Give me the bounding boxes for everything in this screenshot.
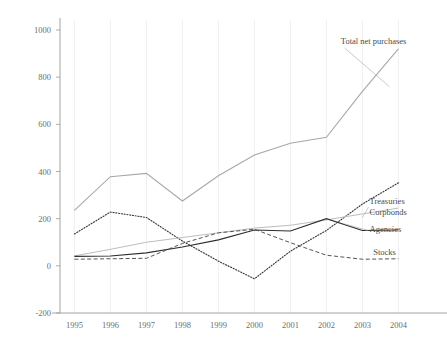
x-tick-label-1995: 1995 [66,320,83,330]
x-tick-label-2000: 2000 [246,320,263,330]
leader-line-treasuries [362,207,368,217]
series-line-total-net-purchases [74,49,398,211]
y-tick-label-800: 800 [38,72,51,82]
series-label-treasuries: Treasuries [370,196,405,206]
series-label-corpbonds: Corpbonds [370,207,407,217]
series-label-agencies: Agencies [370,224,402,234]
data-series-lines [74,49,398,279]
x-tick-label-1998: 1998 [174,320,191,330]
series-line-corpbonds [74,208,398,256]
x-tick-label-2004: 2004 [390,320,408,330]
series-label-total-net-purchases: Total net purchases [341,36,407,46]
y-axis-tick-labels: -20002004006008001000 [34,25,51,318]
y-tick-label-400: 400 [38,167,51,177]
y-tick-label-200: 200 [38,214,51,224]
series-label-stocks: Stocks [373,247,396,257]
x-tick-label-2002: 2002 [318,320,335,330]
y-tick-label-0: 0 [47,261,51,271]
y-tick-label--200: -200 [35,308,51,318]
x-tick-label-1997: 1997 [138,320,155,330]
x-tick-label-2003: 2003 [354,320,371,330]
x-tick-label-1996: 1996 [102,320,119,330]
y-tickmarks [56,30,60,313]
chart-container: -20002004006008001000 199519961997199819… [0,0,447,343]
y-tick-label-600: 600 [38,119,51,129]
x-axis-tick-labels: 1995199619971998199920002001200220032004 [66,320,408,330]
line-chart: -20002004006008001000 199519961997199819… [0,0,447,343]
y-tick-label-1000: 1000 [34,25,51,35]
series-annotation-labels: Total net purchasesTreasuriesCorpbondsAg… [341,36,407,256]
gridlines [74,20,398,313]
series-line-agencies [74,219,398,257]
x-tick-label-1999: 1999 [210,320,227,330]
leader-line-agencies [344,224,367,230]
x-tick-label-2001: 2001 [282,320,299,330]
